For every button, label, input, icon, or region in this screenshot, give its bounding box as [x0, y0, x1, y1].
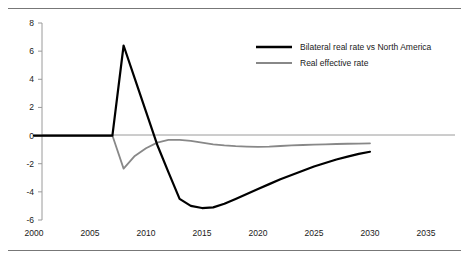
x-tick-label: 2010	[137, 228, 156, 238]
y-tick-label: 6	[29, 46, 34, 56]
legend-label-real-effective: Real effective rate	[300, 58, 369, 68]
y-tick-label: -4	[26, 187, 34, 197]
y-tick-label: 4	[29, 74, 34, 84]
y-tick-label: 8	[29, 18, 34, 28]
x-tick-label: 2035	[417, 228, 436, 238]
chart-figure: 86420-2-4-6 2000200520102015202020252030…	[0, 0, 469, 264]
x-axis: 20002005201020152020202520302035	[25, 135, 455, 238]
y-tick-label: 2	[29, 102, 34, 112]
legend-label-bilateral: Bilateral real rate vs North America	[300, 42, 432, 52]
x-tick-label: 2030	[361, 228, 380, 238]
plot-area	[34, 46, 370, 209]
x-tick-label: 2000	[25, 228, 44, 238]
y-tick-label: -2	[26, 159, 34, 169]
y-axis: 86420-2-4-6	[26, 18, 42, 225]
chart-legend: Bilateral real rate vs North America Rea…	[256, 42, 432, 68]
line-chart: 86420-2-4-6 2000200520102015202020252030…	[0, 0, 469, 264]
x-tick-label: 2015	[193, 228, 212, 238]
y-tick-marks	[38, 23, 42, 220]
x-tick-label: 2020	[249, 228, 268, 238]
y-tick-label: -6	[26, 215, 34, 225]
y-tick-labels: 86420-2-4-6	[26, 18, 34, 225]
x-tick-labels: 20002005201020152020202520302035	[25, 228, 436, 238]
x-tick-label: 2005	[81, 228, 100, 238]
series-line-real-effective-rate	[34, 46, 370, 209]
x-tick-label: 2025	[305, 228, 324, 238]
